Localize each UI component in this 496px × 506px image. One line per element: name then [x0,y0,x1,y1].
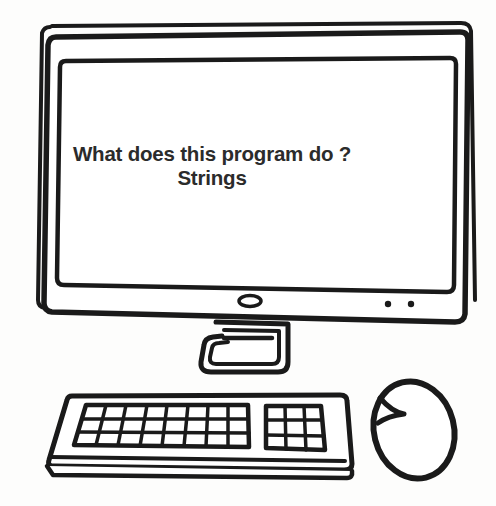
mouse-group [363,373,464,487]
mouse-body [363,373,464,487]
keyboard-numpad-block [266,406,325,450]
keyboard-numpad-row-line [266,435,324,436]
computer-line-drawing [0,0,496,506]
monitor-stand-group [201,322,288,372]
keyboard-numpad-column-line [285,406,286,449]
keyboard-key-row-line [78,432,249,433]
keyboard-numpad-column-line [304,406,306,450]
monitor-indicator-led-right-icon [408,301,414,307]
keyboard-key-column-line [206,405,208,446]
monitor-screen-border [57,58,456,292]
monitor-indicator-led-left-icon [385,301,391,307]
illustration-canvas: What does this program do ? Strings [0,0,496,506]
keyboard-group [47,395,352,478]
monitor-group [38,23,475,322]
monitor-power-button-icon[interactable] [239,296,261,307]
